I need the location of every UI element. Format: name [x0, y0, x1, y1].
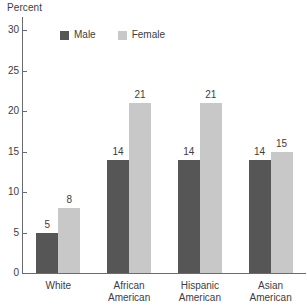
bar-value-label: 8: [58, 195, 80, 205]
x-axis-label-hispanic-american: HispanicAmerican: [165, 280, 236, 304]
bar-chart: Percent 051015202530 Male Female 5814211…: [0, 0, 306, 308]
x-axis-label-line: African: [94, 280, 165, 292]
bar-male-white: [36, 233, 58, 274]
bar-female-hispanic-american: [200, 103, 222, 273]
x-axis-label-line: American: [235, 292, 306, 304]
x-axis-label-white: White: [23, 280, 94, 292]
bar-value-label: 14: [178, 147, 200, 157]
x-axis-label-asian-american: AsianAmerican: [235, 280, 306, 304]
bars-layer: 58142114211415: [0, 0, 306, 308]
bar-female-white: [58, 208, 80, 273]
bar-value-label: 14: [249, 147, 271, 157]
x-axis-label-line: Hispanic: [165, 280, 236, 292]
bar-value-label: 5: [36, 220, 58, 230]
bar-female-african-american: [129, 103, 151, 273]
x-axis-label-african-american: AfricanAmerican: [94, 280, 165, 304]
bar-value-label: 21: [129, 90, 151, 100]
x-axis-label-line: White: [23, 280, 94, 292]
bar-male-hispanic-american: [178, 160, 200, 273]
x-axis-label-line: American: [165, 292, 236, 304]
x-axis-label-line: Asian: [235, 280, 306, 292]
bar-value-label: 14: [107, 147, 129, 157]
bar-female-asian-american: [271, 152, 293, 274]
bar-value-label: 15: [271, 139, 293, 149]
bar-value-label: 21: [200, 90, 222, 100]
x-axis-label-line: American: [94, 292, 165, 304]
bar-male-asian-american: [249, 160, 271, 273]
bar-male-african-american: [107, 160, 129, 273]
